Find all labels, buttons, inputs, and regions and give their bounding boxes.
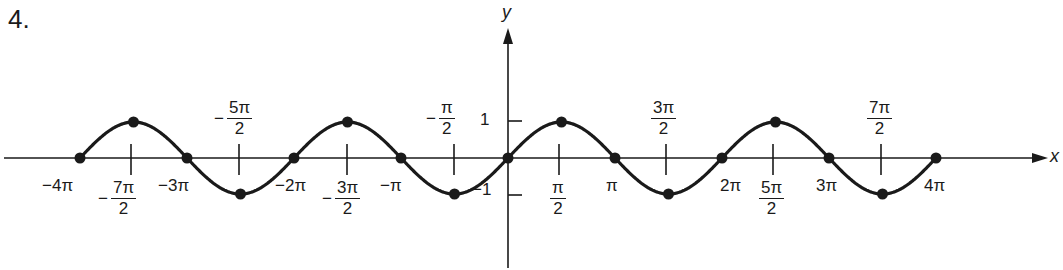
data-point [396,153,407,164]
x-label-neg2pi: −2π [275,176,306,196]
data-point [663,189,674,200]
y-tick-label-neg1: −1 [472,180,491,200]
x-label-neg5pi2: −5π2 [214,98,252,139]
x-label-3pi: 3π [816,176,837,196]
data-point [128,117,139,128]
data-point [931,153,942,164]
x-label-negpi2: −π2 [426,98,455,139]
x-label-3pi2: 3π2 [651,98,676,139]
data-point [610,153,621,164]
sine-graph [0,0,1063,270]
x-label-neg3pi2: −3π2 [322,178,360,219]
problem-number: 4. [8,4,30,35]
data-point [503,153,514,164]
x-label-neg3pi: −3π [158,176,189,196]
x-label-pi: π [606,176,618,196]
data-point [342,117,353,128]
data-point [556,117,567,128]
x-label-2pi: 2π [720,176,741,196]
data-point [717,153,728,164]
x-label-neg4pi: −4π [42,176,73,196]
data-point [182,153,193,164]
x-label-5pi2: 5π2 [759,178,784,219]
x-axis-label: x [1050,146,1059,167]
data-point [289,153,300,164]
y-axis-arrow-icon [503,28,513,44]
data-point [75,153,86,164]
data-point [449,189,460,200]
x-axis-arrow-icon [1032,153,1048,163]
x-label-7pi2: 7π2 [867,98,892,139]
y-axis-label: y [502,2,511,23]
data-point [235,189,246,200]
x-label-neg7pi2: −7π2 [98,178,136,219]
x-label-negpi: −π [380,176,402,196]
x-label-4pi: 4π [924,176,945,196]
data-point [770,117,781,128]
x-label-pi2: π2 [550,178,566,219]
data-point [824,153,835,164]
y-tick-label-1: 1 [480,110,489,130]
data-point [877,189,888,200]
